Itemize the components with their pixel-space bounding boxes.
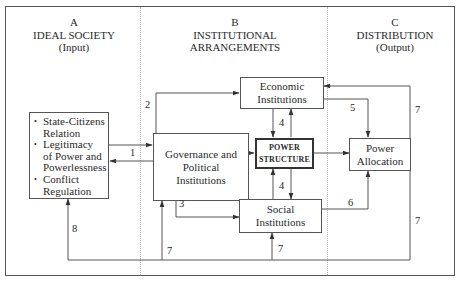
power-allocation-line: Allocation <box>357 155 403 168</box>
social-institutions-box: Social Institutions <box>239 199 322 233</box>
edge-label-4-top: 4 <box>279 117 284 128</box>
item-line: Legitimacy <box>43 138 93 150</box>
governance-line: Governance and <box>165 148 237 161</box>
edge-label-7-social: 7 <box>278 243 283 254</box>
governance-line: Political <box>165 161 237 174</box>
edge-label-5: 5 <box>350 102 355 113</box>
social-line: Institutions <box>256 216 306 229</box>
power-allocation-box: Power Allocation <box>349 138 411 171</box>
edge-label-7-governance: 7 <box>167 245 172 256</box>
ideal-society-item: Legitimacy of Power and Powerlessness <box>34 139 107 174</box>
ideal-society-item: Conflict Regulation <box>34 174 107 197</box>
edge-label-1: 1 <box>130 147 135 158</box>
edge-label-7-right-bottom: 7 <box>415 215 420 226</box>
item-line: Conflict <box>43 173 79 185</box>
edge-label-8: 8 <box>72 223 77 234</box>
ideal-society-box: State-Citizens Relation Legitimacy of Po… <box>29 112 109 199</box>
edge-label-2: 2 <box>145 99 150 110</box>
edge-6 <box>321 171 368 209</box>
edge-3 <box>176 200 239 217</box>
edge-label-4-bottom: 4 <box>279 180 284 191</box>
ideal-society-list: State-Citizens Relation Legitimacy of Po… <box>34 116 107 197</box>
edge-5 <box>323 99 368 137</box>
edge-label-7-right-top: 7 <box>415 104 420 115</box>
economic-line: Economic <box>257 80 307 93</box>
power-structure-box: POWER STRUCTURE <box>255 138 314 169</box>
edge-2 <box>156 93 239 133</box>
edge-7-economic <box>324 86 410 138</box>
governance-box: Governance and Political Institutions <box>153 133 249 201</box>
item-line: of Power and <box>43 150 102 162</box>
item-line: Regulation <box>43 185 91 197</box>
governance-line: Institutions <box>165 174 237 187</box>
item-line: Powerlessness <box>43 161 107 173</box>
power-structure-line: STRUCTURE <box>259 154 310 166</box>
edge-label-3: 3 <box>179 198 184 209</box>
item-line: State-Citizens <box>43 115 105 127</box>
economic-institutions-box: Economic Institutions <box>240 77 324 109</box>
social-line: Social <box>256 203 306 216</box>
ideal-society-item: State-Citizens Relation <box>34 116 107 139</box>
edge-label-6: 6 <box>348 197 353 208</box>
power-allocation-line: Power <box>357 142 403 155</box>
economic-line: Institutions <box>257 93 307 106</box>
power-structure-line: POWER <box>259 142 310 154</box>
item-line: Relation <box>43 127 80 139</box>
